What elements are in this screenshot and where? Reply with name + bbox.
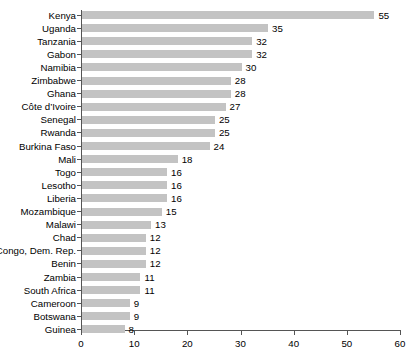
x-axis-tick-mark — [187, 331, 188, 335]
x-axis-tick-mark — [400, 331, 401, 335]
x-axis-tick-mark — [347, 331, 348, 335]
x-axis-tick-mark — [294, 331, 295, 335]
x-axis-tick-label: 20 — [167, 338, 207, 349]
x-axis-tick-label: 30 — [221, 338, 261, 349]
x-axis-tick-mark — [241, 331, 242, 335]
x-axis-tick-label: 10 — [114, 338, 154, 349]
x-axis-tick-mark — [81, 331, 82, 335]
plot-area: Kenya55Uganda35Tanzania32Gabon32Namibia3… — [0, 0, 406, 361]
x-axis-tick-mark — [134, 331, 135, 335]
x-axis-ticks: 0102030405060 — [0, 0, 406, 361]
x-axis-tick-label: 60 — [380, 338, 406, 349]
x-axis-tick-label: 40 — [274, 338, 314, 349]
bar-chart: Kenya55Uganda35Tanzania32Gabon32Namibia3… — [0, 0, 406, 361]
x-axis-tick-label: 0 — [61, 338, 101, 349]
x-axis-tick-label: 50 — [327, 338, 367, 349]
